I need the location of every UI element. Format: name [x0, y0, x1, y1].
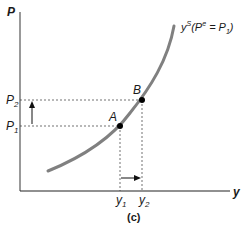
y-axis-label: P [7, 5, 16, 19]
point-a [117, 123, 123, 129]
output-increase-arrow-icon [121, 175, 141, 181]
p2-label: P2 [6, 93, 19, 109]
p1-label: P1 [6, 119, 18, 135]
price-increase-arrow-icon [29, 101, 35, 124]
y2-label: y2 [138, 193, 150, 209]
x-axis-label: y [232, 185, 241, 199]
point-a-label: A [108, 110, 117, 124]
point-b [139, 97, 145, 103]
aggregate-supply-diagram: P y A B P2 P1 y1 y2 yS(Pe = P1) (c) [0, 0, 245, 230]
supply-curve-label: yS(Pe = P1) [180, 20, 234, 35]
point-b-label: B [133, 83, 141, 97]
supply-curve [48, 26, 174, 171]
panel-label: (c) [127, 211, 141, 223]
y1-label: y1 [115, 193, 126, 209]
